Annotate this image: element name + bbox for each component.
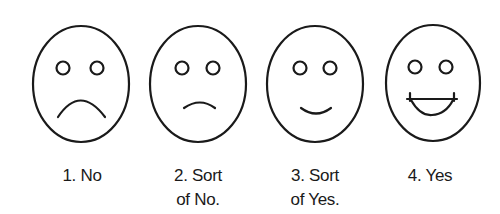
smiley-rating-scale: 1. No 2. Sort of No. 3. Sort of Yes. 4. … [0, 0, 500, 214]
face-yes-icon[interactable] [386, 25, 480, 141]
label-line1: 3. Sort [260, 164, 370, 188]
label-line1: 4. Yes [375, 164, 485, 188]
label-sort-of-yes: 3. Sort of Yes. [260, 164, 370, 212]
label-yes: 4. Yes [375, 164, 485, 188]
label-no: 1. No [27, 164, 137, 188]
label-line2: of No. [143, 188, 253, 212]
face-sort-of-no-icon[interactable] [150, 26, 246, 142]
label-line2: of Yes. [260, 188, 370, 212]
face-sort-of-yes-icon[interactable] [267, 26, 363, 142]
label-sort-of-no: 2. Sort of No. [143, 164, 253, 212]
label-line1: 1. No [27, 164, 137, 188]
label-line1: 2. Sort [143, 164, 253, 188]
face-no-icon[interactable] [33, 26, 129, 142]
